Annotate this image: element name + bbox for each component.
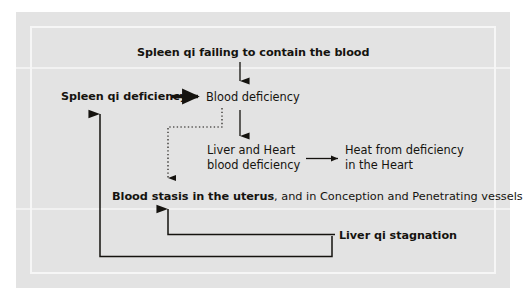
node-spleen-qi-deficiency: Spleen qi deficiency xyxy=(61,90,187,104)
node-blood-stasis-in-the-uterus: Blood stasis in the uterus, and in Conce… xyxy=(112,190,523,204)
node-heat-from-deficiency-in-the-heart: Heat from deficiency in the Heart xyxy=(345,143,469,172)
panel-highlight-band-top xyxy=(16,67,510,69)
node-spleen-qi-failing-to-contain-the-blood: Spleen qi failing to contain the blood xyxy=(137,46,369,60)
node-blood-stasis-remainder: , and in Conception and Penetrating vess… xyxy=(274,190,523,203)
node-blood-deficiency: Blood deficiency xyxy=(206,90,300,105)
node-liver-qi-stagnation: Liver qi stagnation xyxy=(339,229,457,243)
node-liver-and-heart-blood-deficiency: Liver and Heart blood deficiency xyxy=(207,143,303,172)
diagram-canvas: Spleen qi failing to contain the blood S… xyxy=(0,0,526,299)
node-blood-stasis-emphasis: Blood stasis in the uterus xyxy=(112,190,274,203)
panel-highlight-band-middle xyxy=(16,208,510,210)
